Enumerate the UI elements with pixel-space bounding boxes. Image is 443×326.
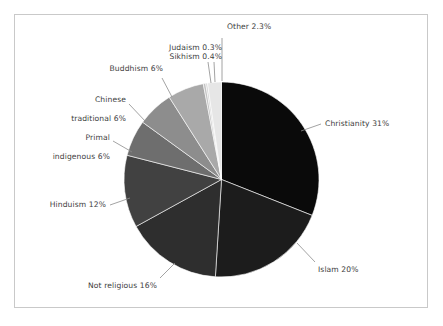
pie-slice-group [124, 82, 319, 277]
leader-line-buddhism [162, 78, 172, 97]
pie-label-chinese-traditional-line2: traditional 6% [71, 114, 126, 123]
pie-label-sikhism: Sikhism 0.4% [169, 52, 222, 61]
leader-line-chinese-traditional [129, 104, 146, 122]
pie-label-buddhism: Buddhism 6% [110, 64, 164, 73]
pie-chart-figure: Christianity 31% Islam 20% Not religious… [0, 0, 443, 326]
leader-line-islam [297, 243, 315, 262]
leader-line-primal-indigenous [113, 141, 132, 152]
pie-label-hinduism: Hinduism 12% [50, 200, 106, 209]
leader-line-judaism [208, 62, 211, 83]
pie-label-islam: Islam 20% [318, 265, 359, 274]
chart-plot-area: Christianity 31% Islam 20% Not religious… [0, 0, 443, 326]
pie-label-chinese-traditional: Chinese traditional 6% [56, 86, 126, 132]
pie-label-chinese-traditional-line1: Chinese [95, 95, 126, 104]
leader-line-sikhism [214, 62, 215, 82]
pie-label-primal-indigenous-line1: Primal [86, 133, 110, 142]
pie-label-primal-indigenous-line2: indigenous 6% [53, 152, 110, 161]
pie-label-not-religious: Not religious 16% [88, 281, 157, 290]
pie-label-judaism: Judaism 0.3% [169, 43, 222, 52]
pie-label-christianity: Christianity 31% [325, 119, 389, 128]
pie-label-other: Other 2.3% [227, 22, 271, 31]
leader-line-not-religious [160, 263, 175, 278]
